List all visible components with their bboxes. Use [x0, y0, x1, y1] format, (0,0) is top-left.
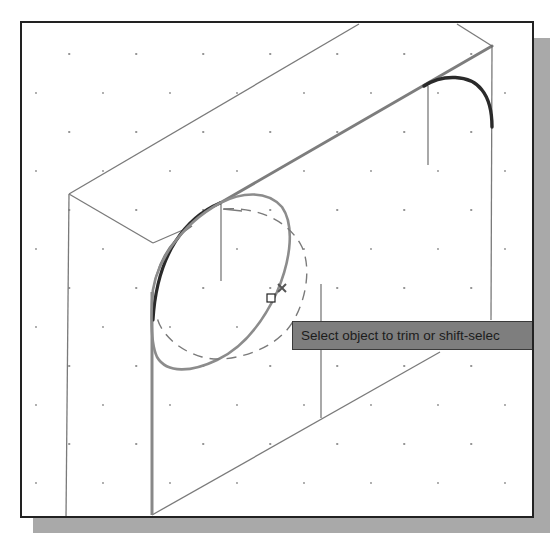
isometric-grid [20, 21, 534, 518]
pickbox-cursor-icon [267, 294, 275, 302]
drawing-canvas[interactable] [20, 21, 534, 518]
command-tooltip: Select object to trim or shift-selec [292, 321, 534, 350]
drawing-viewport[interactable]: Select object to trim or shift-selec [20, 21, 534, 518]
